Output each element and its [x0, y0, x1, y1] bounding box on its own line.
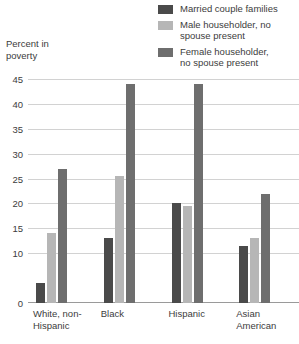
y-axis-tick-label: 20 [12, 198, 23, 209]
legend-swatch-icon [158, 48, 173, 57]
bar [250, 238, 259, 303]
legend-item: Married couple families [158, 3, 299, 15]
bar-group [239, 79, 270, 303]
y-axis-tick-label: 25 [12, 173, 23, 184]
bar-group [104, 79, 135, 303]
bar [194, 84, 203, 303]
bar [126, 84, 135, 303]
y-axis-tick-label: 30 [12, 148, 23, 159]
bar [261, 194, 270, 304]
bar [183, 206, 192, 303]
y-axis-tick-label: 10 [12, 248, 23, 259]
legend-item: Male householder, no spouse present [158, 19, 299, 42]
x-axis-category-label: Black [101, 308, 124, 320]
x-axis-category-label: Hispanic [169, 308, 205, 320]
plot-area: 01015202530354045White, non- HispanicBla… [28, 79, 299, 303]
legend-item-label: Female householder, no spouse present [180, 46, 269, 69]
bar [172, 203, 181, 303]
legend-swatch-icon [158, 5, 173, 14]
y-axis-title: Percent in poverty [6, 38, 49, 61]
x-axis-category-label: Asian American [236, 308, 276, 331]
y-axis-tick-label: 15 [12, 223, 23, 234]
poverty-bar-chart: Married couple familiesMale householder,… [0, 0, 299, 344]
bar [104, 238, 113, 303]
bar [47, 233, 56, 303]
bar-group [172, 79, 203, 303]
chart-legend: Married couple familiesMale householder,… [158, 3, 299, 73]
bar-group [36, 79, 67, 303]
legend-swatch-icon [158, 21, 173, 30]
legend-item-label: Married couple families [180, 3, 278, 15]
bar [36, 283, 45, 303]
y-axis-tick-label: 0 [18, 298, 23, 309]
bar [115, 176, 124, 303]
x-axis-category-label: White, non- Hispanic [33, 308, 82, 331]
legend-item-label: Male householder, no spouse present [180, 19, 271, 42]
y-axis-tick-label: 40 [12, 98, 23, 109]
y-axis-tick-label: 45 [12, 74, 23, 85]
legend-item: Female householder, no spouse present [158, 46, 299, 69]
bar [239, 246, 248, 303]
y-axis-tick-label: 35 [12, 123, 23, 134]
bar [58, 169, 67, 303]
